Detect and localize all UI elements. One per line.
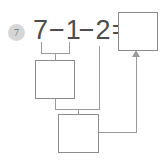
arrow-to-result-horizontal (99, 132, 137, 133)
problem-number-badge: 7 (8, 24, 25, 41)
operand-1: 7 (33, 15, 48, 46)
first-step-answer-box[interactable] (35, 60, 75, 99)
bracket-7-minus-1-drop (55, 53, 56, 61)
arrow-to-result-vertical (136, 56, 137, 133)
second-step-answer-box[interactable] (58, 114, 99, 153)
minus-operator-1: − (48, 15, 66, 46)
operand-3: 2 (96, 15, 111, 46)
arrow-head-icon (132, 50, 140, 57)
bracket-step1-minus-2-drop (78, 109, 79, 115)
final-answer-box[interactable] (118, 12, 158, 51)
minus-operator-2: − (78, 15, 96, 46)
bracket-operand-3-tick (99, 46, 100, 110)
operand-2: 1 (66, 15, 78, 46)
equation-expression: 7 − 1 − 2 = (33, 13, 128, 47)
worksheet-problem: 7 7 − 1 − 2 = (0, 0, 166, 163)
